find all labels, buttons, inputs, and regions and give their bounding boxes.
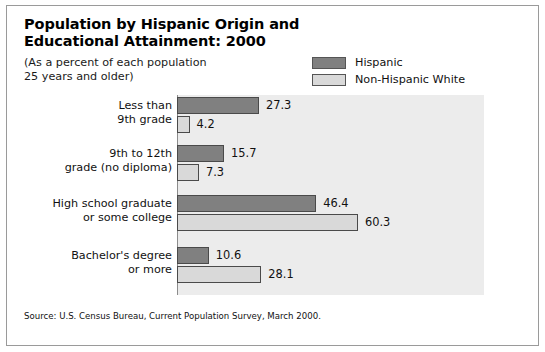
category-label-line: or some college bbox=[30, 211, 172, 225]
bar-value-label: 27.3 bbox=[266, 98, 291, 112]
bar-row: 4.2 bbox=[177, 116, 484, 133]
bar-value-label: 46.4 bbox=[323, 196, 348, 210]
bar-non-hispanic-white bbox=[177, 116, 190, 133]
category-label-line: 9th to 12th bbox=[30, 147, 172, 161]
category-label-line: High school graduate bbox=[30, 197, 172, 211]
chart-subtitle: (As a percent of each population 25 year… bbox=[24, 56, 284, 84]
bar-row: 27.3 bbox=[177, 97, 484, 114]
bar-row: 28.1 bbox=[177, 266, 484, 283]
bar-row: 60.3 bbox=[177, 214, 484, 231]
category-label: Less than9th grade bbox=[30, 99, 172, 126]
bar-group: Less than9th grade27.34.2 bbox=[24, 97, 484, 139]
title-line-2: Educational Attainment: 2000 bbox=[24, 33, 324, 50]
subtitle-line-1: (As a percent of each population bbox=[24, 56, 284, 70]
bar-value-label: 60.3 bbox=[365, 215, 390, 229]
plot-area: Less than9th grade27.34.29th to 12thgrad… bbox=[24, 95, 484, 295]
bar-value-label: 4.2 bbox=[197, 117, 215, 131]
bar-row: 46.4 bbox=[177, 195, 484, 212]
category-label: High school graduateor some college bbox=[30, 197, 172, 224]
category-label-line: 9th grade bbox=[30, 113, 172, 127]
category-label: 9th to 12thgrade (no diploma) bbox=[30, 147, 172, 174]
category-label-line: grade (no diploma) bbox=[30, 161, 172, 175]
title-line-1: Population by Hispanic Origin and bbox=[24, 16, 324, 33]
source-note: Source: U.S. Census Bureau, Current Popu… bbox=[24, 311, 321, 321]
bar-row: 7.3 bbox=[177, 164, 484, 181]
legend-swatch-hispanic bbox=[312, 57, 346, 69]
bar-hispanic bbox=[177, 195, 316, 212]
bar-value-label: 10.6 bbox=[216, 248, 241, 262]
category-label-line: Bachelor's degree bbox=[30, 249, 172, 263]
bar-group: High school graduateor some college46.46… bbox=[24, 195, 484, 237]
chart-figure: Population by Hispanic Origin and Educat… bbox=[0, 0, 545, 352]
category-label: Bachelor's degreeor more bbox=[30, 249, 172, 276]
legend-item-hispanic: Hispanic bbox=[312, 55, 465, 70]
bar-value-label: 15.7 bbox=[231, 146, 256, 160]
bar-row: 15.7 bbox=[177, 145, 484, 162]
bar-hispanic bbox=[177, 247, 209, 264]
bar-value-label: 28.1 bbox=[268, 267, 293, 281]
bar-hispanic bbox=[177, 97, 259, 114]
page-title: Population by Hispanic Origin and Educat… bbox=[24, 16, 324, 50]
legend-label-non-hispanic-white: Non-Hispanic White bbox=[355, 73, 465, 86]
bar-value-label: 7.3 bbox=[206, 165, 224, 179]
legend-item-non-hispanic-white: Non-Hispanic White bbox=[312, 72, 465, 87]
category-label-line: Less than bbox=[30, 99, 172, 113]
bar-group: 9th to 12thgrade (no diploma)15.77.3 bbox=[24, 145, 484, 187]
chart-legend: Hispanic Non-Hispanic White bbox=[312, 55, 465, 89]
bar-group: Bachelor's degreeor more10.628.1 bbox=[24, 247, 484, 289]
bar-non-hispanic-white bbox=[177, 214, 358, 231]
legend-swatch-non-hispanic-white bbox=[312, 74, 346, 86]
legend-label-hispanic: Hispanic bbox=[355, 56, 403, 69]
bar-non-hispanic-white bbox=[177, 164, 199, 181]
category-label-line: or more bbox=[30, 263, 172, 277]
bar-row: 10.6 bbox=[177, 247, 484, 264]
bar-non-hispanic-white bbox=[177, 266, 261, 283]
bar-hispanic bbox=[177, 145, 224, 162]
subtitle-line-2: 25 years and older) bbox=[24, 70, 284, 84]
